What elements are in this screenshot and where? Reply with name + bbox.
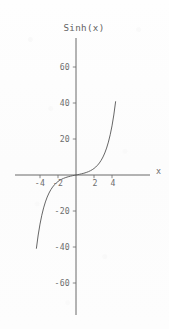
- plot-title: Sinh(x): [63, 22, 104, 33]
- y-tick-label-20: 20: [60, 134, 70, 144]
- plot-figure: Sinh(x) x -4 -2 2 4 60 40 20 -20 -40 -60: [0, 0, 169, 329]
- y-tick-label-neg40: -40: [55, 242, 70, 252]
- y-tick-label-neg60: -60: [55, 278, 70, 288]
- y-tick-label-neg20: -20: [55, 206, 70, 216]
- x-tick-label-4: 4: [110, 178, 115, 188]
- x-tick-label-2: 2: [92, 178, 97, 188]
- x-tick-label-neg2: -2: [53, 178, 63, 188]
- y-tick-label-60: 60: [60, 62, 70, 72]
- x-axis-label: x: [156, 166, 161, 176]
- y-tick-label-40: 40: [60, 98, 70, 108]
- sinh-plot-svg: Sinh(x) x -4 -2 2 4 60 40 20 -20 -40 -60: [0, 0, 169, 329]
- x-tick-label-neg4: -4: [35, 178, 45, 188]
